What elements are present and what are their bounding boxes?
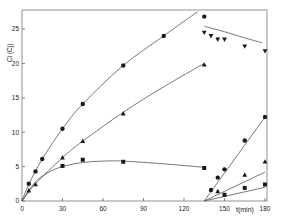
triangle-up-marker: [80, 139, 85, 143]
circle-marker: [60, 127, 64, 131]
circle-marker: [121, 63, 125, 67]
fit-lines: [22, 12, 265, 201]
fit-line-circles-phase2: [204, 117, 265, 201]
circle-marker: [27, 182, 31, 186]
circle-marker: [263, 115, 267, 119]
square-marker: [81, 158, 85, 162]
circle-marker: [162, 34, 166, 38]
y-tick-label: 15: [12, 94, 20, 101]
triangle-down-marker: [222, 38, 227, 42]
chart-canvas: 03060901201501800510152025 Ci (Cj) t(min…: [0, 0, 283, 222]
plot-border: [22, 10, 267, 201]
x-tick-label: 180: [260, 205, 271, 212]
y-tick-label: 0: [15, 197, 19, 204]
square-marker: [202, 166, 206, 170]
circle-marker: [243, 138, 247, 142]
triangle-up-marker: [242, 172, 247, 176]
axis-labels: Ci (Cj) t(min): [6, 44, 254, 214]
fit-line-triangles-up-phase2: [204, 172, 265, 201]
circle-marker: [81, 102, 85, 106]
circle-marker: [33, 169, 37, 173]
fit-line-triangles-up: [22, 63, 204, 201]
square-marker: [243, 186, 247, 190]
y-tick-label: 10: [12, 129, 20, 136]
x-tick-label: 30: [59, 205, 67, 212]
square-marker: [61, 164, 65, 168]
circle-marker: [222, 167, 226, 171]
axes: 03060901201501800510152025: [12, 25, 271, 212]
x-tick-label: 90: [140, 205, 148, 212]
plot-frame: [22, 10, 267, 201]
triangle-down-marker: [215, 38, 220, 42]
x-axis-label: t(min): [236, 206, 254, 214]
square-marker: [223, 193, 227, 197]
square-marker: [121, 160, 125, 164]
circle-marker: [40, 157, 44, 161]
data-markers: [26, 14, 267, 196]
triangle-down-marker: [242, 44, 247, 48]
x-tick-label: 150: [219, 205, 230, 212]
square-marker: [263, 182, 267, 186]
x-tick-label: 0: [20, 205, 24, 212]
triangle-down-marker: [202, 31, 207, 35]
y-axis-label: Ci (Cj): [6, 44, 14, 62]
y-tick-label: 5: [15, 163, 19, 170]
fit-line-squares: [22, 161, 204, 201]
circle-marker: [202, 14, 206, 18]
y-tick-label: 25: [12, 25, 20, 32]
triangle-up-marker: [215, 189, 220, 193]
x-tick-label: 120: [179, 205, 190, 212]
x-tick-label: 60: [99, 205, 107, 212]
circle-marker: [209, 188, 213, 192]
circle-marker: [216, 175, 220, 179]
triangle-down-marker: [209, 34, 214, 38]
fit-line-squares-phase2: [204, 187, 265, 201]
